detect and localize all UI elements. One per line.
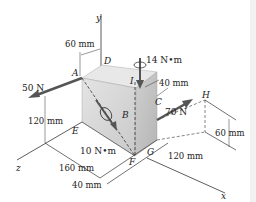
point-label-H: H	[202, 91, 210, 100]
point-label-C: C	[155, 98, 162, 107]
moment-label-14Nm: 14 N•m	[146, 56, 182, 65]
point-label-G: G	[147, 148, 154, 157]
axis-label-z: z	[16, 164, 21, 173]
axis-label-x: x	[221, 192, 226, 201]
point-label-E: E	[72, 127, 79, 136]
force-label-70N: 70 N	[165, 108, 187, 117]
diagram-graphics	[0, 0, 256, 202]
axis-label-y: y	[96, 14, 101, 23]
point-label-I: I	[130, 77, 134, 86]
dimension-120mm-right: 120 mm	[168, 152, 203, 161]
point-label-A: A	[72, 69, 79, 78]
point-label-D: D	[104, 57, 111, 66]
x-axis-line	[147, 158, 225, 193]
right-edge-strip	[250, 0, 256, 202]
moment-label-10Nm: 10 N•m	[80, 147, 116, 156]
force-label-50N: 50 N	[22, 84, 44, 93]
point-label-F: F	[129, 158, 135, 167]
dimension-160mm: 160 mm	[59, 164, 94, 173]
dimension-60mm-right: 60 mm	[215, 129, 245, 138]
rigid-body-force-diagram: y x z A D B C E F G H I 50 N 70 N 14 N•m…	[0, 0, 256, 202]
dimension-120mm-left: 120 mm	[28, 117, 63, 126]
dimension-40mm-bottom: 40 mm	[72, 181, 102, 190]
point-label-B: B	[122, 111, 129, 120]
dimension-60mm-top: 60 mm	[65, 40, 95, 49]
dimension-40mm-top: 40 mm	[159, 79, 189, 88]
